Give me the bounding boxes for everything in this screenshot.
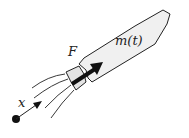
position-label: x (18, 95, 26, 110)
exhaust-plume (32, 74, 74, 118)
position-arrow (12, 101, 42, 123)
mass-label: m(t) (115, 33, 143, 48)
force-label: F (67, 44, 78, 59)
rocket-diagram: m(t) F x (0, 0, 189, 138)
